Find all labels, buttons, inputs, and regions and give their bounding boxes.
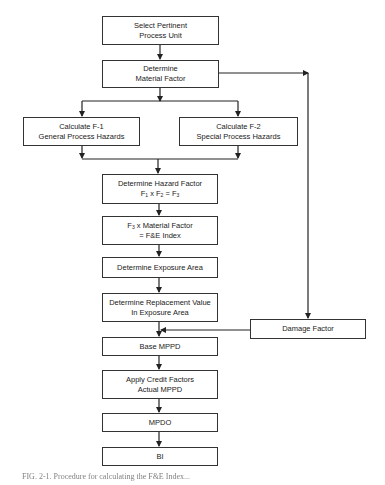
node-label: In Exposure Area: [131, 308, 189, 318]
node-calculate-f1: Calculate F-1 General Process Hazards: [23, 117, 140, 146]
node-fe-index: F3 x Material Factor = F&E Index: [102, 216, 218, 245]
node-label: Determine: [143, 64, 178, 74]
node-label: Base MPPD: [140, 342, 181, 352]
node-label: Apply Credit Factors: [126, 375, 194, 385]
node-determine-material-factor: Determine Material Factor: [102, 60, 219, 88]
fe-formula: F3 x Material Factor: [127, 221, 192, 231]
node-mpdo: MPDO: [102, 413, 218, 432]
node-label: Select Pertinent: [134, 21, 187, 31]
node-label: Calculate F-2: [216, 122, 261, 132]
node-replacement-value: Determine Replacement Value In Exposure …: [102, 293, 218, 322]
node-bi: BI: [102, 447, 218, 466]
node-damage-factor: Damage Factor: [250, 319, 366, 339]
node-calculate-f2: Calculate F-2 Special Process Hazards: [179, 117, 298, 146]
node-label: Calculate F-1: [59, 122, 104, 132]
figure-caption: FIG. 2-1. Procedure for calculating the …: [22, 472, 190, 481]
node-label: MPDO: [149, 418, 172, 428]
node-select-process-unit: Select Pertinent Process Unit: [102, 16, 219, 45]
node-label: Process Unit: [139, 31, 182, 41]
node-label: Actual MPPD: [138, 385, 183, 395]
node-label: Special Process Hazards: [197, 132, 281, 142]
node-label: Determine Hazard Factor: [118, 179, 202, 189]
hazard-formula: F1 x F2 = F3: [141, 189, 180, 199]
node-label: Material Factor: [135, 74, 185, 84]
node-label: BI: [156, 452, 163, 462]
node-label: = F&E Index: [139, 231, 180, 241]
node-label: Determine Exposure Area: [117, 263, 203, 273]
node-apply-credit-factors: Apply Credit Factors Actual MPPD: [102, 370, 218, 399]
node-label: Damage Factor: [282, 324, 334, 334]
node-determine-hazard-factor: Determine Hazard Factor F1 x F2 = F3: [102, 174, 218, 204]
node-label: Determine Replacement Value: [109, 298, 211, 308]
node-label: General Process Hazards: [39, 132, 125, 142]
node-base-mppd: Base MPPD: [102, 337, 218, 356]
node-determine-exposure-area: Determine Exposure Area: [102, 257, 218, 278]
